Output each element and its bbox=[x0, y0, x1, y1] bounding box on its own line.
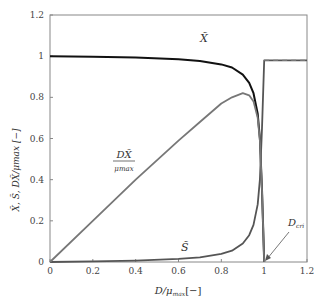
x-tick-label: 1 bbox=[261, 266, 267, 276]
dcri-arrow bbox=[267, 232, 289, 259]
x-tick-label: 0.8 bbox=[214, 266, 229, 276]
label-s-tilde: S̃ bbox=[181, 241, 189, 254]
chart: 00.20.40.60.811.200.20.40.60.811.2 X̃ DX… bbox=[0, 0, 324, 302]
s-tilde-curve bbox=[50, 60, 307, 262]
tick-labels: 00.20.40.60.811.200.20.40.60.811.2 bbox=[30, 10, 314, 276]
label-x-tilde: X̃ bbox=[199, 32, 209, 45]
y-tick-label: 1 bbox=[38, 51, 44, 61]
y-axis-label: X̃, S̃, DX̃/μmax [−] bbox=[10, 128, 21, 212]
label-dx-numerator: DX̃ bbox=[115, 149, 132, 160]
x-tick-label: 1.2 bbox=[300, 266, 314, 276]
y-tick-label: 0.6 bbox=[30, 134, 45, 144]
y-tick-label: 0.4 bbox=[30, 175, 45, 185]
x-tick-label: 0.2 bbox=[86, 266, 100, 276]
y-tick-label: 1.2 bbox=[30, 10, 44, 20]
x-tick-label: 0.6 bbox=[171, 266, 186, 276]
x-tick-label: 0 bbox=[47, 266, 53, 276]
curves bbox=[50, 56, 307, 262]
x-tick-label: 0.4 bbox=[129, 266, 144, 276]
label-dx-denominator: μmax bbox=[114, 165, 133, 173]
label-dcri: Dcri bbox=[287, 217, 304, 229]
y-tick-label: 0.2 bbox=[30, 216, 44, 226]
y-tick-label: 0.8 bbox=[30, 92, 45, 102]
dx-curve bbox=[50, 93, 264, 262]
x-axis-label: D/μmax[−] bbox=[154, 285, 202, 297]
y-tick-label: 0 bbox=[38, 257, 44, 267]
